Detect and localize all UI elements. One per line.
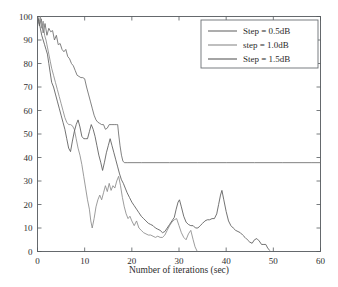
x-tick-label: 30: [175, 256, 185, 266]
y-tick-label: 60: [24, 106, 34, 116]
chart-legend: Step = 0.5dBstep = 1.0dBStep = 1.5dB: [201, 20, 318, 68]
legend-label-2: step = 1.0dB: [243, 40, 289, 50]
y-tick-label: 100: [19, 12, 33, 22]
line-chart: 0102030405060 0102030405060708090100 Num…: [0, 0, 338, 287]
y-tick-label: 10: [24, 223, 34, 233]
y-tick-label: 80: [24, 59, 34, 69]
x-tick-label: 0: [35, 256, 40, 266]
y-tick-label: 70: [24, 82, 34, 92]
y-tick-label: 50: [24, 129, 34, 139]
legend-label-3: Step = 1.5dB: [243, 54, 290, 64]
y-tick-label: 40: [24, 153, 34, 163]
x-tick-label: 40: [222, 256, 232, 266]
y-tick-label: 0: [28, 247, 33, 257]
legend-label-1: Step = 0.5dB: [243, 26, 290, 36]
x-tick-label: 10: [80, 256, 90, 266]
y-tick-label: 20: [24, 200, 34, 210]
figure-container: 0102030405060 0102030405060708090100 Num…: [0, 0, 338, 287]
y-tick-label: 90: [24, 35, 34, 45]
y-tick-label: 30: [24, 176, 34, 186]
x-tick-label: 50: [269, 256, 279, 266]
x-tick-label: 60: [316, 256, 326, 266]
x-axis-title: Number of iterations (sec): [129, 265, 229, 276]
x-tick-label: 20: [127, 256, 137, 266]
